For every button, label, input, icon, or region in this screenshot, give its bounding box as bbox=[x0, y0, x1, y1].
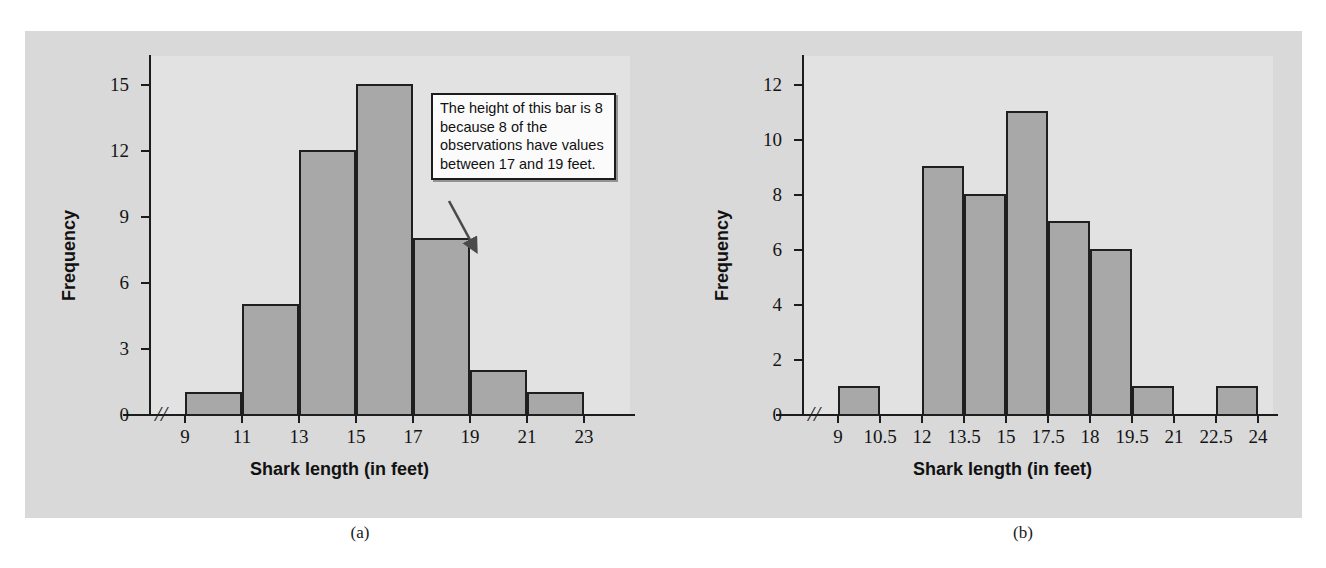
y-tick-label-b-0: 0 bbox=[742, 404, 782, 426]
subcaption-a: (a) bbox=[300, 523, 420, 543]
y-tick-b-6 bbox=[794, 249, 803, 251]
bar-a-6 bbox=[470, 370, 527, 416]
bar-b-8 bbox=[1132, 386, 1174, 416]
x-tick-b-19_5 bbox=[1131, 414, 1133, 423]
y-tick-b-8 bbox=[794, 194, 803, 196]
y-tick-a-0 bbox=[141, 414, 150, 416]
x-tick-b-24 bbox=[1257, 414, 1259, 423]
y-tick-a-15 bbox=[141, 84, 150, 86]
x-tick-a-13 bbox=[298, 414, 300, 423]
y-tick-a-3 bbox=[141, 348, 150, 350]
histogram-b: 0 2 4 6 8 10 12 // 9 bbox=[663, 31, 1301, 518]
y-tick-b-10 bbox=[794, 139, 803, 141]
y-tick-a-9 bbox=[141, 216, 150, 218]
y-tick-label-b-4: 4 bbox=[742, 294, 782, 316]
bar-b-5 bbox=[1006, 111, 1048, 416]
bar-a-2 bbox=[242, 304, 299, 416]
x-tick-label-a-21: 21 bbox=[497, 426, 557, 448]
x-tick-a-15 bbox=[355, 414, 357, 423]
axis-break-b: // bbox=[808, 403, 820, 425]
y-tick-b-4 bbox=[794, 304, 803, 306]
x-tick-b-22_5 bbox=[1215, 414, 1217, 423]
figure-panel: 0 3 6 9 12 15 // 9 11 bbox=[25, 31, 1302, 518]
x-tick-label-a-23: 23 bbox=[554, 426, 614, 448]
x-tick-label-b-24: 24 bbox=[1228, 426, 1288, 448]
x-tick-a-21 bbox=[526, 414, 528, 423]
y-axis-title-b: Frequency bbox=[712, 210, 733, 301]
bar-a-1 bbox=[185, 392, 242, 416]
bar-a-5 bbox=[413, 238, 470, 416]
y-tick-label-b-10: 10 bbox=[742, 129, 782, 151]
x-tick-b-17_5 bbox=[1047, 414, 1049, 423]
x-tick-a-23 bbox=[583, 414, 585, 423]
x-tick-label-a-11: 11 bbox=[212, 426, 272, 448]
x-tick-label-a-17: 17 bbox=[383, 426, 443, 448]
y-tick-label-b-2: 2 bbox=[742, 349, 782, 371]
y-tick-label-b-8: 8 bbox=[742, 184, 782, 206]
bar-b-10 bbox=[1216, 386, 1258, 416]
x-tick-label-a-15: 15 bbox=[326, 426, 386, 448]
axis-break-a: // bbox=[155, 403, 167, 425]
x-axis-title-b: Shark length (in feet) bbox=[913, 459, 1092, 480]
bar-a-7 bbox=[527, 392, 584, 416]
x-tick-a-9 bbox=[184, 414, 186, 423]
y-tick-b-2 bbox=[794, 359, 803, 361]
y-tick-a-6 bbox=[141, 282, 150, 284]
y-tick-label-a-3: 3 bbox=[89, 338, 129, 360]
x-tick-label-a-9: 9 bbox=[155, 426, 215, 448]
x-tick-b-21 bbox=[1173, 414, 1175, 423]
x-tick-label-a-19: 19 bbox=[440, 426, 500, 448]
histogram-a: 0 3 6 9 12 15 // 9 11 bbox=[25, 31, 663, 518]
x-tick-b-12 bbox=[921, 414, 923, 423]
y-tick-label-a-0: 0 bbox=[89, 404, 129, 426]
x-tick-label-a-13: 13 bbox=[269, 426, 329, 448]
bar-a-3 bbox=[299, 150, 356, 416]
figure-page: 0 3 6 9 12 15 // 9 11 bbox=[0, 0, 1326, 568]
x-tick-a-17 bbox=[412, 414, 414, 423]
x-tick-b-18 bbox=[1089, 414, 1091, 423]
y-axis-line-b bbox=[802, 55, 804, 415]
y-tick-label-b-6: 6 bbox=[742, 239, 782, 261]
y-tick-label-a-6: 6 bbox=[89, 272, 129, 294]
callout-box: The height of this bar is 8 because 8 of… bbox=[431, 93, 616, 180]
y-axis-line-a bbox=[149, 55, 151, 415]
x-tick-a-11 bbox=[241, 414, 243, 423]
x-tick-b-15 bbox=[1005, 414, 1007, 423]
bar-b-3 bbox=[922, 166, 964, 416]
y-tick-b-0 bbox=[794, 414, 803, 416]
bar-a-4 bbox=[356, 84, 413, 416]
y-tick-label-a-12: 12 bbox=[89, 140, 129, 162]
y-tick-b-12 bbox=[794, 84, 803, 86]
bar-b-7 bbox=[1090, 249, 1132, 416]
bar-b-4 bbox=[964, 194, 1006, 416]
y-tick-label-a-15: 15 bbox=[89, 74, 129, 96]
y-axis-title-a: Frequency bbox=[59, 210, 80, 301]
callout-arrow-icon bbox=[445, 199, 505, 263]
y-tick-a-12 bbox=[141, 150, 150, 152]
x-tick-a-19 bbox=[469, 414, 471, 423]
x-axis-title-a: Shark length (in feet) bbox=[250, 459, 429, 480]
x-tick-b-9 bbox=[837, 414, 839, 423]
y-tick-label-b-12: 12 bbox=[742, 74, 782, 96]
x-tick-b-13_5 bbox=[963, 414, 965, 423]
x-tick-b-10_5 bbox=[879, 414, 881, 423]
y-tick-label-a-9: 9 bbox=[89, 206, 129, 228]
bar-b-1 bbox=[838, 386, 880, 416]
bar-b-6 bbox=[1048, 221, 1090, 416]
subcaption-b: (b) bbox=[963, 523, 1083, 543]
